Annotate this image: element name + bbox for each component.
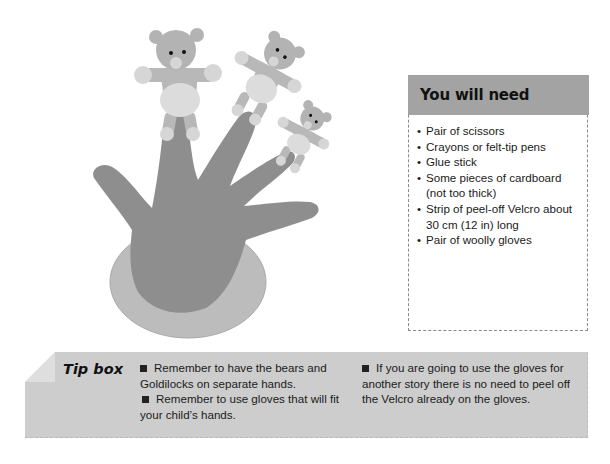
bullet-icon: • bbox=[417, 123, 421, 139]
tip-column-1: Remember to have the bears and Goldilock… bbox=[140, 360, 340, 422]
tip-column-2: If you are going to use the gloves for a… bbox=[362, 360, 572, 407]
hand-with-bear-puppets-illustration bbox=[80, 0, 360, 340]
materials-list: •Pair of scissors •Crayons or felt-tip p… bbox=[417, 123, 583, 248]
tip-item: Remember to use gloves that will fit you… bbox=[140, 391, 340, 422]
you-will-need-header: You will need bbox=[408, 75, 589, 115]
square-bullet-icon bbox=[140, 365, 147, 372]
square-bullet-icon bbox=[142, 396, 149, 403]
list-item: •Strip of peel-off Velcro about 30 cm (1… bbox=[417, 201, 583, 232]
bullet-icon: • bbox=[417, 170, 421, 186]
bullet-icon: • bbox=[417, 154, 421, 170]
tip-box-label: Tip box bbox=[63, 361, 123, 377]
tip-item: Remember to have the bears and Goldilock… bbox=[140, 360, 340, 391]
bullet-icon: • bbox=[417, 201, 421, 217]
list-item: •Pair of scissors bbox=[417, 123, 583, 139]
bullet-icon: • bbox=[417, 139, 421, 155]
list-item: •Crayons or felt-tip pens bbox=[417, 139, 583, 155]
list-item: •Pair of woolly gloves bbox=[417, 232, 583, 248]
list-item: •Some pieces of cardboard (not too thick… bbox=[417, 170, 583, 201]
bullet-icon: • bbox=[417, 232, 421, 248]
tip-item: If you are going to use the gloves for a… bbox=[362, 360, 572, 407]
you-will-need-title: You will need bbox=[420, 86, 529, 104]
you-will-need-box: You will need •Pair of scissors •Crayons… bbox=[408, 75, 588, 331]
square-bullet-icon bbox=[362, 365, 369, 372]
tip-box: Tip box Remember to have the bears and G… bbox=[25, 352, 588, 438]
list-item: •Glue stick bbox=[417, 154, 583, 170]
